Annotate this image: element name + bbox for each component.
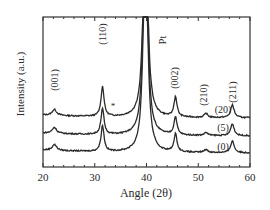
peak-label-001: (001) [49,69,61,91]
x-axis-label: Angle (2θ) [120,186,172,200]
x-tick-label: 50 [193,171,205,183]
x-tick-label: 30 [89,171,101,183]
peak-label-pt: Pt [157,36,168,45]
y-axis-label: Intensity (a.u.) [14,51,27,116]
peak-label-210: (210) [198,84,210,106]
series-label-5: (5) [217,122,229,134]
series-label-20: (20) [215,104,232,116]
series-label-0: (0) [217,141,229,153]
impurity-star-marker: * [111,101,116,111]
peak-label-211: (211) [227,81,239,102]
xrd-chart: 20 30 40 50 60 Angle (2θ) Intensity (a.u… [0,0,270,210]
series-curve [43,17,250,118]
peak-label-110: (110) [97,23,109,44]
x-tick-label: 60 [245,171,257,183]
peak-label-002: (002) [169,67,181,89]
x-tick-label: 20 [38,171,50,183]
x-tick-label: 40 [141,171,153,183]
